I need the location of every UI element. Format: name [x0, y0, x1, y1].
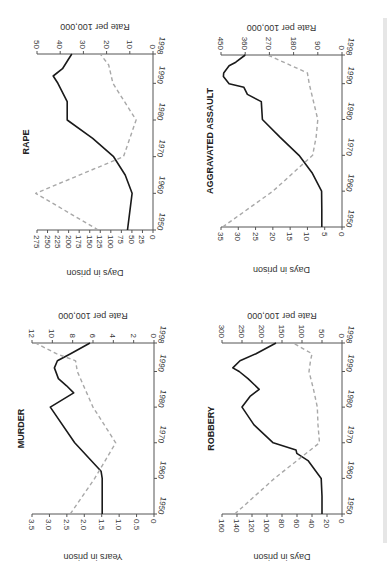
left-tick-label: 0 [337, 519, 346, 524]
left-tick-label: 25 [251, 232, 260, 241]
right-tick-label: 0 [149, 334, 158, 339]
left-tick-label: 30 [233, 232, 242, 241]
right-tick-label: 20 [102, 40, 111, 49]
year-tick-label: 1950 [155, 212, 167, 232]
right-tick-label: 30 [78, 40, 87, 49]
right-tick-label: 12 [27, 329, 36, 338]
right-tick-label: 10 [125, 40, 134, 49]
year-tick-label: 1950 [344, 209, 356, 229]
left-tick-label: 100 [106, 235, 115, 249]
year-tick-label: 1950 [156, 496, 168, 516]
left-tick-label: 15 [285, 232, 294, 241]
left-tick-label: 225 [53, 235, 62, 249]
right-tick-label: 250 [237, 325, 246, 339]
left-tick-label: 140 [232, 519, 241, 533]
left-tick-label: 0.5 [132, 519, 141, 531]
left-tick-label: 200 [64, 235, 73, 249]
left-tick-label: 3.0 [44, 519, 53, 531]
left-tick-label: 0 [149, 519, 158, 524]
right-tick-label: 180 [289, 37, 298, 51]
year-tick-label: 1980 [155, 102, 167, 122]
left-tick-label: 120 [247, 519, 256, 533]
left-tick-label: 35 [216, 232, 225, 241]
panel-rape: 1950196019701980199019980255075100125150… [21, 22, 167, 278]
left-tick-label: 2.0 [79, 519, 88, 531]
left-tick-label: 5 [320, 232, 329, 237]
panel-title: AGGRAVATED ASSAULT [205, 88, 215, 194]
left-tick-label: 0 [148, 235, 157, 240]
left-axis-title: Days in prison [66, 268, 123, 278]
rate-line [53, 54, 132, 230]
right-tick-label: 360 [240, 37, 249, 51]
right-tick-label: 8 [68, 334, 77, 339]
left-tick-label: 125 [95, 235, 104, 249]
year-tick-label: 1960 [344, 173, 356, 193]
panel-aggravated-assault: 1950196019701980199019980510152025303509… [205, 23, 356, 275]
year-tick-label: 1970 [344, 137, 356, 157]
right-tick-label: 270 [264, 37, 273, 51]
year-tick-label: 1990 [155, 65, 167, 85]
panel-title: ROBBERY [206, 406, 216, 451]
right-tick-label: 100 [297, 325, 306, 339]
left-tick-label: 175 [74, 235, 83, 249]
right-axis-title: Rate per 100,000 [247, 311, 317, 321]
left-tick-label: 1.5 [97, 519, 106, 531]
days-in-prison-line [223, 55, 318, 227]
right-tick-label: 50 [317, 329, 326, 338]
left-tick-label: 100 [262, 519, 271, 533]
days-in-prison-line [235, 343, 320, 514]
days-in-prison-line [36, 54, 136, 230]
year-tick-label: 1970 [155, 139, 167, 159]
year-tick-label: 1960 [344, 461, 356, 481]
year-tick-label: 1990 [156, 354, 168, 374]
left-tick-label: 150 [85, 235, 94, 249]
right-axis-title: Rate per 100,000 [58, 311, 128, 321]
left-tick-label: 20 [268, 232, 277, 241]
days-in-prison-line [36, 343, 116, 514]
right-tick-label: 50 [32, 40, 41, 49]
year-tick-label: 1960 [155, 175, 167, 195]
panel-title: MURDER [16, 408, 26, 448]
right-tick-label: 2 [129, 334, 138, 339]
panel-robbery: 1950196019701980199019980204060801001201… [206, 311, 356, 562]
year-tick-label: 1990 [344, 354, 356, 374]
panel-murder: 19501960197019801990199800.51.01.52.02.5… [16, 311, 168, 562]
right-axis-title: Rate per 100,000 [247, 23, 317, 33]
right-tick-label: 0 [337, 334, 346, 339]
right-tick-label: 40 [55, 40, 64, 49]
year-tick-label: 1970 [344, 425, 356, 445]
left-tick-label: 25 [137, 235, 146, 244]
right-tick-label: 450 [216, 37, 225, 51]
left-tick-label: 80 [277, 519, 286, 528]
left-tick-label: 40 [307, 519, 316, 528]
figure: 1950196019701980199019980255075100125150… [0, 0, 391, 565]
right-tick-label: 0 [337, 46, 346, 51]
left-axis-title: Days in prison [253, 552, 310, 562]
right-tick-label: 10 [47, 329, 56, 338]
rate-line [223, 55, 321, 227]
left-tick-label: 60 [292, 519, 301, 528]
figure-canvas: 1950196019701980199019980255075100125150… [0, 0, 391, 565]
rate-line [233, 343, 322, 514]
panel-title: RAPE [21, 129, 31, 154]
left-tick-label: 275 [32, 235, 41, 249]
left-axis-title: Days in prison [253, 265, 310, 275]
left-tick-label: 75 [116, 235, 125, 244]
right-tick-label: 200 [257, 325, 266, 339]
year-tick-label: 1980 [344, 102, 356, 122]
left-tick-label: 2.5 [62, 519, 71, 531]
page-margin-strip [383, 18, 387, 543]
right-tick-label: 0 [148, 45, 157, 50]
right-tick-label: 6 [88, 334, 97, 339]
left-tick-label: 0 [337, 232, 346, 237]
right-tick-label: 150 [277, 325, 286, 339]
year-tick-label: 1970 [156, 425, 168, 445]
right-tick-label: 4 [108, 334, 117, 339]
left-tick-label: 160 [217, 519, 226, 533]
year-tick-label: 1960 [156, 461, 168, 481]
right-tick-label: 300 [217, 325, 226, 339]
year-tick-label: 1990 [344, 66, 356, 86]
year-tick-label: 1980 [156, 389, 168, 409]
right-tick-label: 90 [313, 41, 322, 50]
left-tick-label: 250 [43, 235, 52, 249]
